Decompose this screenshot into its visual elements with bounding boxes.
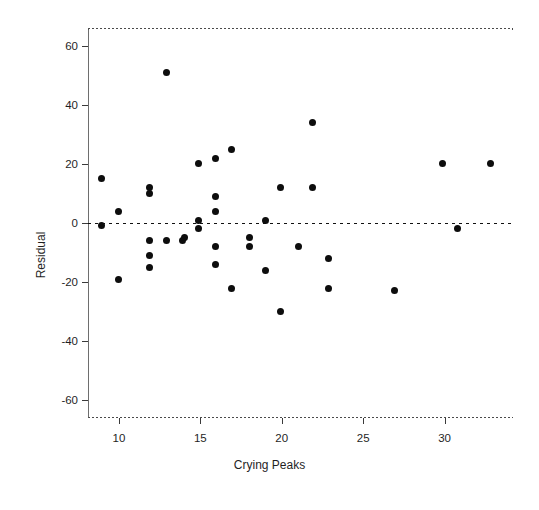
y-tick-mark <box>82 46 88 47</box>
scatter-point <box>309 119 316 126</box>
scatter-point <box>277 308 284 315</box>
scatter-point <box>146 190 153 197</box>
scatter-point <box>115 208 122 215</box>
scatter-point <box>212 208 219 215</box>
scatter-point <box>212 155 219 162</box>
y-tick-mark <box>82 400 88 401</box>
scatter-point <box>98 222 105 229</box>
y-tick-mark <box>82 223 88 224</box>
scatter-point <box>262 267 269 274</box>
y-tick-label: -60 <box>36 394 78 406</box>
scatter-point <box>212 193 219 200</box>
scatter-point <box>262 217 269 224</box>
scatter-point <box>228 146 235 153</box>
x-tick-label: 10 <box>113 432 126 444</box>
scatter-point <box>277 184 284 191</box>
x-tick-label: 30 <box>438 432 451 444</box>
x-tick-mark <box>282 418 283 424</box>
scatter-point <box>163 237 170 244</box>
scatter-point <box>487 160 494 167</box>
scatter-point <box>146 264 153 271</box>
y-tick-mark <box>82 341 88 342</box>
plot-area <box>88 28 513 418</box>
scatter-point <box>246 243 253 250</box>
data-points-layer <box>88 28 513 418</box>
y-tick-mark <box>82 282 88 283</box>
scatter-point <box>439 160 446 167</box>
scatter-point <box>195 225 202 232</box>
x-tick-mark <box>200 418 201 424</box>
scatter-point <box>309 184 316 191</box>
x-tick-label: 25 <box>357 432 370 444</box>
y-tick-label: -40 <box>36 335 78 347</box>
y-tick-mark <box>82 164 88 165</box>
scatter-point <box>146 252 153 259</box>
y-tick-label: 20 <box>36 158 78 170</box>
scatter-point <box>181 234 188 241</box>
x-tick-label: 15 <box>194 432 207 444</box>
y-tick-label: 60 <box>36 40 78 52</box>
x-tick-mark <box>119 418 120 424</box>
scatter-point <box>325 285 332 292</box>
scatter-point <box>246 234 253 241</box>
x-tick-label: 20 <box>275 432 288 444</box>
x-tick-mark <box>445 418 446 424</box>
scatter-point <box>115 276 122 283</box>
scatter-point <box>98 175 105 182</box>
scatter-point <box>146 237 153 244</box>
scatter-point <box>325 255 332 262</box>
y-tick-mark <box>82 105 88 106</box>
scatter-point <box>295 243 302 250</box>
scatter-point <box>195 160 202 167</box>
scatter-point <box>163 69 170 76</box>
scatter-point <box>391 287 398 294</box>
y-tick-label: 40 <box>36 99 78 111</box>
scatter-point <box>212 261 219 268</box>
y-axis-label: Residual <box>34 232 48 279</box>
scatter-point <box>212 243 219 250</box>
scatter-plot-figure: 6040200-20-40-60 1015202530 Residual Cry… <box>0 0 539 510</box>
x-tick-mark <box>363 418 364 424</box>
scatter-point <box>195 217 202 224</box>
scatter-point <box>228 285 235 292</box>
x-axis-label: Crying Peaks <box>0 458 539 472</box>
scatter-point <box>454 225 461 232</box>
y-tick-label: 0 <box>36 217 78 229</box>
